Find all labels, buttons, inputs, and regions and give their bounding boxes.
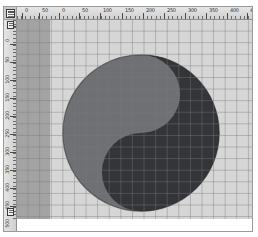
ruler-tick xyxy=(13,114,16,115)
ruler-major-tick xyxy=(10,152,16,153)
ruler-tick xyxy=(63,16,64,19)
ruler-tick xyxy=(156,16,157,19)
ruler-label: 300 xyxy=(188,8,197,13)
ruler-major-tick xyxy=(164,13,165,19)
ruler-major-tick xyxy=(79,13,80,19)
ruler-tick xyxy=(130,16,131,19)
ruler-tick xyxy=(13,171,16,172)
ruler-major-tick xyxy=(185,13,186,19)
ruler-major-tick xyxy=(10,116,16,117)
ruler-tick xyxy=(13,31,16,32)
ruler-major-tick xyxy=(10,170,16,171)
ruler-label: 50 xyxy=(82,8,88,13)
ruler-tick xyxy=(13,128,16,129)
ruler-label: 0 xyxy=(5,39,10,42)
ruler-tick xyxy=(13,103,16,104)
ruler-major-tick xyxy=(10,188,16,189)
ruler-tick xyxy=(109,16,110,19)
drawing-canvas[interactable] xyxy=(17,20,252,219)
ruler-tick xyxy=(13,121,16,122)
ruler-tick xyxy=(25,16,26,19)
ruler-major-tick xyxy=(122,13,123,19)
ruler-tick xyxy=(13,56,16,57)
ruler-tick xyxy=(13,142,16,143)
horizontal-ruler[interactable]: 050050100150200250300350400450 xyxy=(17,7,252,20)
ruler-major-tick xyxy=(59,13,60,19)
ruler-tick xyxy=(235,16,236,19)
ruler-tick xyxy=(168,16,169,19)
ruler-label: 350 xyxy=(209,8,218,13)
ruler-tick xyxy=(13,81,16,82)
ruler-major-tick xyxy=(206,13,207,19)
ruler-tick xyxy=(177,16,178,19)
ruler-tick xyxy=(151,16,152,19)
ruler-tick xyxy=(13,124,16,125)
ruler-tick xyxy=(244,16,245,19)
ruler-tick xyxy=(13,85,16,86)
ruler-major-tick xyxy=(143,13,144,19)
ruler-tick xyxy=(13,218,16,219)
ruler-tick xyxy=(13,38,16,39)
ruler-tick xyxy=(13,146,16,147)
ruler-major-tick xyxy=(22,13,23,19)
guide-origin-marker-icon[interactable] xyxy=(6,9,15,18)
ruler-tick xyxy=(17,16,18,19)
ruler-tick xyxy=(13,78,16,79)
ruler-tick xyxy=(13,70,16,71)
guide-marker-bottom[interactable] xyxy=(7,208,14,216)
ruler-tick xyxy=(76,16,77,19)
ruler-label: 250 xyxy=(167,8,176,13)
ruler-major-tick xyxy=(10,62,16,63)
guide-marker-top[interactable] xyxy=(7,21,14,29)
ruler-tick xyxy=(51,16,52,19)
ruler-tick xyxy=(181,16,182,19)
ruler-major-tick xyxy=(10,44,16,45)
ruler-label: 450 xyxy=(250,8,252,13)
ruler-major-tick xyxy=(10,134,16,135)
ruler-tick xyxy=(114,16,115,19)
ruler-tick xyxy=(13,49,16,50)
ruler-tick xyxy=(214,16,215,19)
ruler-tick xyxy=(88,16,89,19)
ruler-tick xyxy=(13,96,16,97)
ruler-tick xyxy=(13,178,16,179)
ruler-major-tick xyxy=(10,206,16,207)
canvas-viewport[interactable] xyxy=(17,20,252,231)
ruler-label: 0 xyxy=(25,8,28,13)
ruler-tick xyxy=(210,16,211,19)
ruler-tick xyxy=(13,67,16,68)
ruler-tick xyxy=(97,16,98,19)
ruler-tick xyxy=(13,92,16,93)
ruler-tick xyxy=(13,164,16,165)
ruler-tick xyxy=(172,16,173,19)
ruler-tick xyxy=(202,16,203,19)
yin-yang-symbol[interactable] xyxy=(62,54,220,212)
ruler-tick xyxy=(13,63,16,64)
ruler-tick xyxy=(13,34,16,35)
ruler-major-tick xyxy=(39,13,40,19)
ruler-tick xyxy=(13,139,16,140)
ruler-tick xyxy=(84,16,85,19)
ruler-corner[interactable] xyxy=(4,7,17,20)
ruler-major-tick xyxy=(227,13,228,19)
ruler-tick xyxy=(13,193,16,194)
ruler-tick xyxy=(72,16,73,19)
ruler-tick xyxy=(13,99,16,100)
ruler-tick xyxy=(139,16,140,19)
ruler-tick xyxy=(13,52,16,53)
ruler-tick xyxy=(13,110,16,111)
ruler-tick xyxy=(231,16,232,19)
ruler-tick xyxy=(13,189,16,190)
left-gray-band xyxy=(17,20,50,219)
ruler-label: 0 xyxy=(62,8,65,13)
ruler-tick xyxy=(198,16,199,19)
ruler-tick xyxy=(13,74,16,75)
vertical-ruler[interactable]: 050100150200250300350400450500 xyxy=(4,20,17,231)
ruler-tick xyxy=(118,16,119,19)
ruler-tick xyxy=(30,16,31,19)
ruler-major-tick xyxy=(247,13,248,19)
ruler-tick xyxy=(223,16,224,19)
ruler-tick xyxy=(55,16,56,19)
ruler-tick xyxy=(13,157,16,158)
ruler-label: 200 xyxy=(146,8,155,13)
